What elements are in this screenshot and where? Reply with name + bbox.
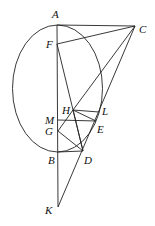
label-A: A — [51, 8, 59, 20]
label-H: H — [61, 104, 71, 116]
label-B: B — [48, 154, 55, 166]
label-G: G — [45, 125, 53, 137]
geometry-diagram: A C F H L M E G B D K — [0, 0, 155, 226]
label-E: E — [96, 123, 104, 135]
segment-AC — [57, 25, 135, 26]
segment-ME — [58, 120, 96, 121]
line-segments — [57, 25, 135, 207]
segment-KC — [58, 26, 135, 207]
label-C: C — [139, 23, 147, 35]
label-F: F — [45, 38, 53, 50]
label-L: L — [101, 105, 108, 117]
segment-AK — [57, 25, 58, 207]
segment-BD — [58, 151, 83, 152]
label-K: K — [44, 204, 53, 216]
label-D: D — [83, 154, 92, 166]
